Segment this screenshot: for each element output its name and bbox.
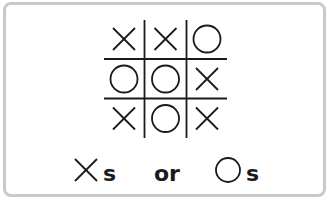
o-mark-icon xyxy=(111,66,138,93)
legend-x-icon xyxy=(75,159,97,181)
legend-o-label: s xyxy=(246,163,259,185)
x-mark-icon xyxy=(113,28,135,50)
legend-o-icon xyxy=(216,158,240,182)
x-mark-icon xyxy=(196,68,218,90)
o-mark-icon xyxy=(152,66,179,93)
x-mark-icon xyxy=(196,108,218,130)
x-mark-icon xyxy=(155,28,177,50)
o-mark-icon xyxy=(152,105,179,132)
legend-separator: or xyxy=(154,163,180,185)
o-mark-icon xyxy=(194,26,221,53)
legend-x-label: s xyxy=(103,163,116,185)
x-mark-icon xyxy=(113,108,135,130)
